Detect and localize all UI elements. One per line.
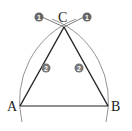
step-marker-2-left: 2 — [42, 64, 51, 73]
step-marker-label: 2 — [44, 65, 48, 72]
step-marker-1-left: 1 — [35, 13, 44, 22]
construction-diagram: A B C 1 1 2 2 — [0, 0, 132, 131]
point-label-a: A — [7, 99, 18, 114]
point-label-b: B — [111, 99, 120, 114]
step-marker-label: 2 — [77, 65, 81, 72]
step-marker-1-right: 1 — [83, 13, 92, 22]
point-label-c: C — [58, 10, 67, 25]
step-marker-label: 1 — [85, 14, 89, 21]
step-marker-label: 1 — [37, 14, 41, 21]
step-marker-2-right: 2 — [75, 64, 84, 73]
